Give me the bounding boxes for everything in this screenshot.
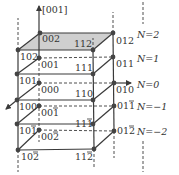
level-n1: N=1 [136,53,159,64]
label-01-2: 012 [117,125,135,136]
label-00-2: 002 [41,131,59,142]
crystal-lattice-diagram: [001] 002 012 102 112 001 011 101 111 00… [0,0,179,175]
label-000: 000 [41,84,59,95]
node-012 [111,31,116,36]
node-01-2 [112,129,117,134]
node-10-2 [16,148,21,153]
label-112: 112 [74,38,92,49]
node-labels: 002 012 102 112 001 011 101 111 000 010 … [19,33,135,162]
label-012: 012 [116,35,134,46]
label-101: 101 [19,75,37,86]
level-nm1: N=−1 [136,101,167,112]
label-11-2: 112 [75,151,93,162]
label-100: 100 [19,101,37,112]
level-labels: N=2 N=1 N=0 N=−1 N=−2 [136,29,167,137]
label-001: 001 [41,59,59,70]
node-011 [111,55,116,60]
label-002: 002 [42,33,60,44]
z-axis-label: [001] [42,4,68,15]
label-01-1: 011 [117,100,135,111]
label-110: 110 [75,88,93,99]
top-face-shade [18,33,113,50]
level-n0: N=0 [136,79,159,90]
label-010: 010 [116,84,134,95]
label-11-1: 111 [75,118,93,129]
level-nm2: N=−2 [136,126,167,137]
label-102: 102 [20,51,38,62]
label-00-1: 001 [41,107,59,118]
level-n2: N=2 [136,29,159,40]
label-10-2: 102 [21,151,39,162]
node-01-1 [112,104,117,109]
label-011: 011 [116,58,134,69]
label-111: 111 [75,62,93,73]
label-10-1: 101 [19,125,37,136]
